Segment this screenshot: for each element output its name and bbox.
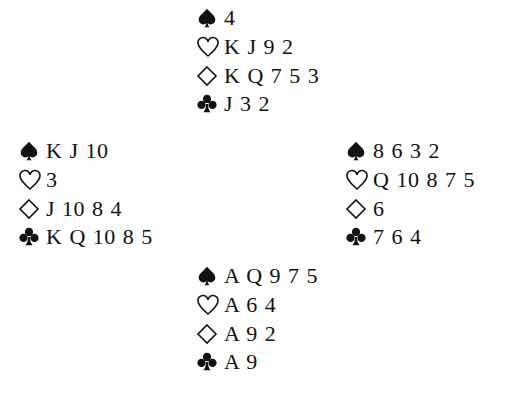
heart-icon bbox=[196, 294, 224, 316]
south-spades-cards: A Q 9 7 5 bbox=[224, 263, 318, 289]
north-spades-row: 4 bbox=[196, 4, 319, 33]
club-icon bbox=[196, 351, 224, 373]
east-hand: 8 6 3 2 Q 10 8 7 5 6 7 6 4 bbox=[345, 137, 475, 252]
south-hearts-cards: A 6 4 bbox=[224, 292, 276, 318]
south-diamonds-row: A 9 2 bbox=[196, 319, 318, 348]
east-clubs-row: 7 6 4 bbox=[345, 223, 475, 252]
south-hearts-row: A 6 4 bbox=[196, 291, 318, 320]
south-diamonds-cards: A 9 2 bbox=[224, 321, 276, 347]
south-hand: A Q 9 7 5 A 6 4 A 9 2 A 9 bbox=[196, 262, 318, 377]
west-clubs-row: K Q 10 8 5 bbox=[18, 223, 153, 252]
north-diamonds-row: K Q 7 5 3 bbox=[196, 61, 319, 90]
west-hand: K J 10 3 J 10 8 4 K Q 10 8 5 bbox=[18, 137, 153, 252]
south-clubs-row: A 9 bbox=[196, 348, 318, 377]
spade-icon bbox=[345, 140, 373, 162]
west-diamonds-cards: J 10 8 4 bbox=[46, 196, 122, 222]
club-icon bbox=[345, 226, 373, 248]
east-hearts-cards: Q 10 8 7 5 bbox=[373, 167, 475, 193]
heart-icon bbox=[345, 169, 373, 191]
club-icon bbox=[196, 93, 224, 115]
north-diamonds-cards: K Q 7 5 3 bbox=[224, 63, 319, 89]
west-diamonds-row: J 10 8 4 bbox=[18, 194, 153, 223]
east-hearts-row: Q 10 8 7 5 bbox=[345, 166, 475, 195]
west-hearts-row: 3 bbox=[18, 166, 153, 195]
north-spades-cards: 4 bbox=[224, 5, 236, 31]
west-spades-cards: K J 10 bbox=[46, 138, 108, 164]
diamond-icon bbox=[196, 65, 224, 87]
east-spades-row: 8 6 3 2 bbox=[345, 137, 475, 166]
south-spades-row: A Q 9 7 5 bbox=[196, 262, 318, 291]
east-clubs-cards: 7 6 4 bbox=[373, 224, 422, 250]
north-hearts-cards: K J 9 2 bbox=[224, 34, 293, 60]
spade-icon bbox=[196, 265, 224, 287]
east-diamonds-row: 6 bbox=[345, 194, 475, 223]
diamond-icon bbox=[196, 323, 224, 345]
south-clubs-cards: A 9 bbox=[224, 349, 258, 375]
north-clubs-cards: J 3 2 bbox=[224, 91, 270, 117]
spade-icon bbox=[18, 140, 46, 162]
west-hearts-cards: 3 bbox=[46, 167, 58, 193]
west-clubs-cards: K Q 10 8 5 bbox=[46, 224, 153, 250]
club-icon bbox=[18, 226, 46, 248]
north-hand: 4 K J 9 2 K Q 7 5 3 J 3 2 bbox=[196, 4, 319, 119]
north-clubs-row: J 3 2 bbox=[196, 90, 319, 119]
spade-icon bbox=[196, 7, 224, 29]
east-spades-cards: 8 6 3 2 bbox=[373, 138, 440, 164]
north-hearts-row: K J 9 2 bbox=[196, 33, 319, 62]
heart-icon bbox=[18, 169, 46, 191]
heart-icon bbox=[196, 36, 224, 58]
east-diamonds-cards: 6 bbox=[373, 196, 385, 222]
diamond-icon bbox=[18, 198, 46, 220]
west-spades-row: K J 10 bbox=[18, 137, 153, 166]
diamond-icon bbox=[345, 198, 373, 220]
